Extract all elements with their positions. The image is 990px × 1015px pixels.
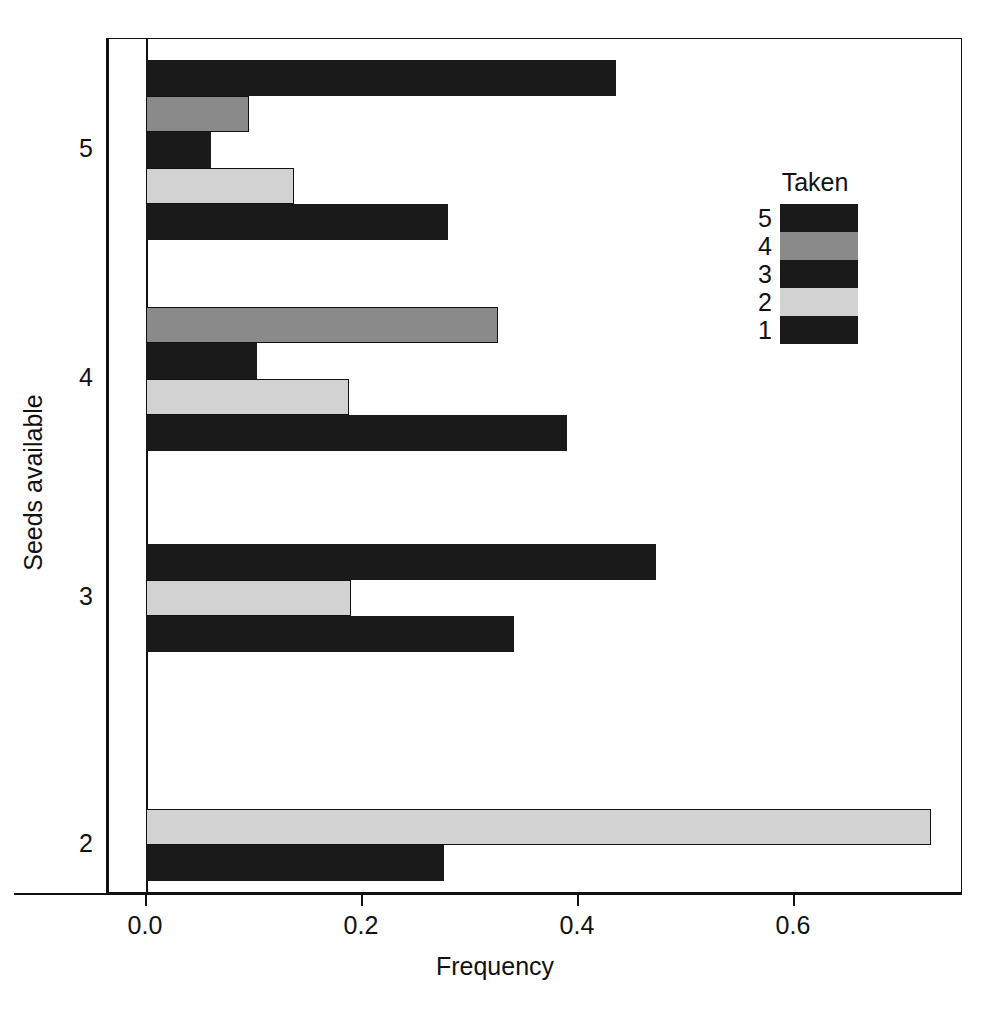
- x-tick-0.2: [361, 893, 363, 906]
- bar-seeds-5-taken-3: [146, 132, 211, 168]
- x-tick-label-0.2: 0.2: [316, 911, 406, 940]
- x-tick-0.4: [577, 893, 579, 906]
- legend-swatch-1: [780, 316, 858, 344]
- y-axis-title: Seeds available: [19, 368, 48, 598]
- y-axis-line: [106, 38, 108, 893]
- legend-entry-4: 4: [742, 232, 862, 260]
- legend-label-2: 2: [742, 288, 780, 316]
- x-tick-0.0: [145, 893, 147, 906]
- x-axis-title: Frequency: [0, 952, 990, 981]
- x-tick-0.6: [793, 893, 795, 906]
- y-tick-label-5: 5: [53, 136, 93, 161]
- bar-seeds-5-taken-2: [146, 168, 294, 204]
- legend-entry-5: 5: [742, 204, 862, 232]
- legend-entry-3: 3: [742, 260, 862, 288]
- legend-title: Taken: [776, 168, 854, 197]
- bar-seeds-4-taken-4: [146, 307, 498, 343]
- x-tick-label-0.0: 0.0: [100, 911, 190, 940]
- bar-seeds-4-taken-2: [146, 379, 349, 415]
- legend-label-1: 1: [742, 316, 780, 344]
- legend-entries: 54321: [742, 204, 862, 344]
- x-tick-label-0.4: 0.4: [532, 911, 622, 940]
- y-tick-label-3: 3: [53, 584, 93, 609]
- bar-seeds-2-taken-2: [146, 809, 931, 845]
- bar-seeds-3-taken-2: [146, 580, 351, 616]
- legend-label-3: 3: [742, 260, 780, 288]
- legend-swatch-2: [780, 288, 858, 316]
- legend-entry-2: 2: [742, 288, 862, 316]
- legend: Taken 54321: [742, 168, 862, 344]
- bar-seeds-4-taken-3: [146, 343, 257, 379]
- bar-seeds-4-taken-1: [146, 415, 567, 451]
- x-tick-label-0.6: 0.6: [748, 911, 838, 940]
- y-tick-label-2: 2: [53, 831, 93, 856]
- legend-swatch-4: [780, 232, 858, 260]
- legend-swatch-5: [780, 204, 858, 232]
- x-axis-line: [14, 893, 962, 895]
- plot-area: [108, 38, 962, 893]
- bar-seeds-3-taken-3: [146, 544, 656, 580]
- legend-label-4: 4: [742, 232, 780, 260]
- legend-label-5: 5: [742, 204, 780, 232]
- legend-entry-1: 1: [742, 316, 862, 344]
- bar-seeds-5-taken-1: [146, 204, 448, 240]
- bar-seeds-5-taken-5: [146, 60, 616, 96]
- y-tick-labels: 2345: [45, 0, 93, 1015]
- chart-figure: 2345 Seeds available 0.00.20.40.6 Freque…: [0, 0, 990, 1015]
- y-tick-label-4: 4: [53, 365, 93, 390]
- bar-seeds-3-taken-1: [146, 616, 514, 652]
- legend-swatch-3: [780, 260, 858, 288]
- bar-seeds-5-taken-4: [146, 96, 249, 132]
- bar-seeds-2-taken-1: [146, 845, 444, 881]
